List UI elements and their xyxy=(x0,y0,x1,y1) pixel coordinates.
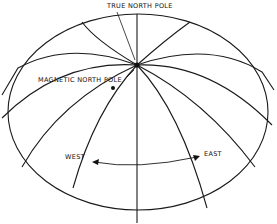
meridian xyxy=(137,54,274,90)
true-north-pole-dot xyxy=(134,62,139,67)
magnetic-north-pole-dot xyxy=(111,86,115,90)
meridian xyxy=(2,65,137,118)
true-north-label: TRUE NORTH POLE xyxy=(107,2,173,10)
east-label: EAST xyxy=(204,150,222,158)
globe-diagram: TRUE NORTH POLE MAGNETIC NORTH POLE WEST… xyxy=(0,0,277,224)
magnetic-pointer xyxy=(127,70,134,77)
west-arrowhead xyxy=(92,159,99,165)
meridian xyxy=(137,65,272,125)
east-arrowhead xyxy=(193,155,200,161)
meridian xyxy=(137,22,190,65)
globe-outline xyxy=(8,14,268,210)
west-label: WEST xyxy=(65,153,85,161)
magnetic-north-label: MAGNETIC NORTH POLE xyxy=(38,76,122,84)
true-north-pointer xyxy=(117,12,135,60)
meridian xyxy=(137,65,255,167)
west-east-arrow xyxy=(94,157,197,165)
globe-lines xyxy=(0,0,277,224)
